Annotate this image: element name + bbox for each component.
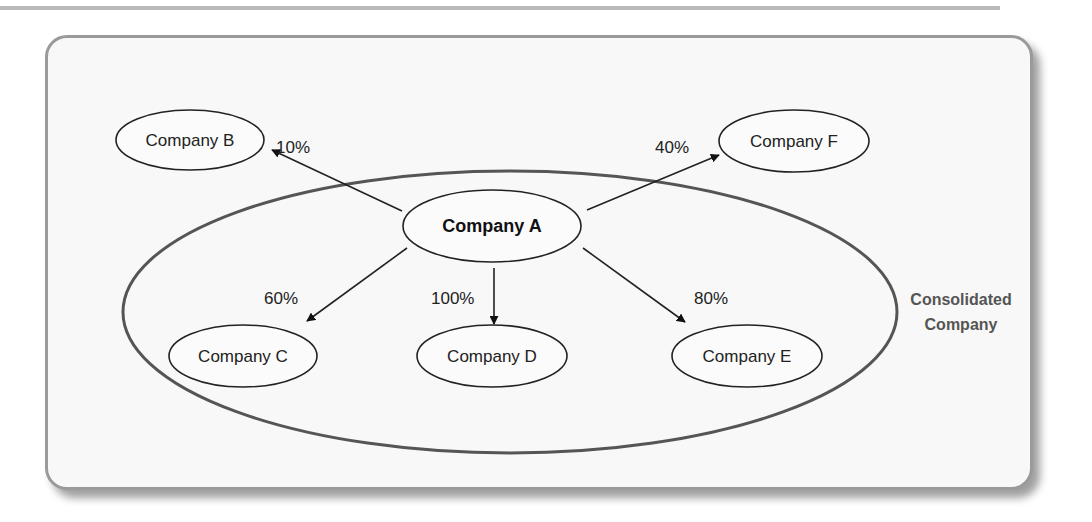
arrow-a-to-e	[583, 248, 685, 322]
ownership-label-f: 40%	[655, 138, 689, 157]
arrow-a-to-f	[587, 155, 719, 210]
node-company-f: Company F	[719, 110, 869, 172]
node-label: Company D	[447, 347, 537, 366]
node-label: Company A	[442, 216, 541, 236]
node-company-e: Company E	[672, 325, 822, 387]
ownership-label-e: 80%	[694, 289, 728, 308]
ownership-label-d: 100%	[431, 289, 474, 308]
consolidated-company-label: Consolidated Company	[910, 291, 1011, 333]
node-company-a: Company A	[403, 190, 581, 262]
arrow-a-to-b	[272, 150, 402, 211]
arrow-a-to-c	[307, 248, 407, 321]
node-label: Company C	[198, 347, 288, 366]
group-label-line2: Company	[925, 316, 998, 333]
node-company-c: Company C	[169, 325, 317, 387]
node-label: Company F	[750, 132, 838, 151]
node-company-b: Company B	[116, 110, 264, 170]
node-company-d: Company D	[417, 325, 567, 387]
ownership-label-b: 10%	[276, 138, 310, 157]
group-label-line1: Consolidated	[910, 291, 1011, 308]
node-label: Company B	[146, 131, 235, 150]
ownership-label-c: 60%	[264, 289, 298, 308]
node-label: Company E	[703, 347, 792, 366]
ownership-diagram: Company A Company B 10% Company F 40% Co…	[0, 0, 1092, 522]
